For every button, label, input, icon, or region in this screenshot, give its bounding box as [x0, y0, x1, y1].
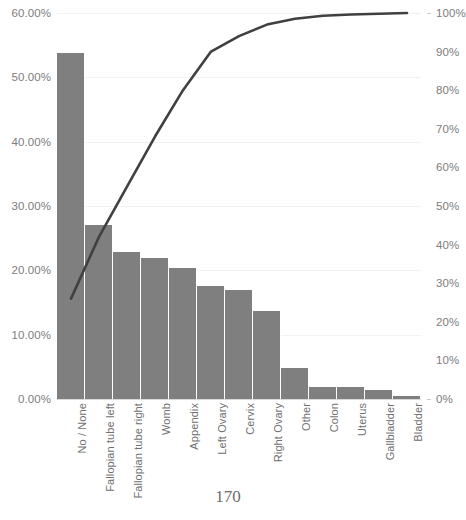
plot-area [57, 13, 421, 399]
page-number: 170 [0, 487, 456, 507]
category-label: Other [300, 403, 312, 431]
category-label: Gallbladder [384, 403, 396, 460]
category-label: Uterus [356, 403, 368, 436]
y2-axis-tick-label: 50% [436, 200, 459, 212]
y2-axis-tick-label: 30% [436, 277, 459, 289]
primary-y-axis: 0.00%10.00%20.00%30.00%40.00%50.00%60.00… [0, 13, 51, 399]
y-axis-tick-label: 0.00% [18, 393, 51, 405]
y2-axis-tick-label: 70% [436, 123, 459, 135]
category-axis-labels: No / NoneFallopian tube leftFallopian tu… [57, 403, 421, 483]
y2-axis-tick-label: 80% [436, 84, 459, 96]
y-axis-tick-label: 50.00% [11, 71, 51, 83]
y-axis-tick-label: 10.00% [11, 329, 51, 341]
y2-axis-tick-label: 40% [436, 239, 459, 251]
y2-axis-tick-label: 60% [436, 161, 459, 173]
y2-axis-tick-label: 20% [436, 316, 459, 328]
y2-axis-tick-mark [427, 399, 431, 400]
y2-axis-tick-label: 90% [436, 46, 459, 58]
category-label: Womb [160, 403, 172, 435]
category-label: No / None [76, 403, 88, 453]
y2-axis-tick-label: 10% [436, 354, 459, 366]
category-label: Fallopian tube left [104, 403, 116, 492]
category-label: Fallopian tube right [132, 403, 144, 499]
y2-axis-tick-label: 100% [436, 7, 466, 19]
category-label: Right Ovary [272, 403, 284, 462]
secondary-y-axis: 0%10%20%30%40%50%60%70%80%90%100% [427, 13, 456, 399]
category-label: Bladder [412, 403, 424, 442]
cumulative-line-series [57, 13, 421, 399]
y2-axis-tick-label: 0% [436, 393, 453, 405]
category-label: Colon [328, 403, 340, 432]
y2-axis-tick-mark [427, 13, 431, 14]
y-axis-tick-label: 20.00% [11, 264, 51, 276]
gridline [57, 399, 421, 400]
category-label: Left Ovary [216, 403, 228, 455]
y-axis-tick-label: 40.00% [11, 136, 51, 148]
category-label: Appendix [188, 403, 200, 450]
category-label: Cervix [244, 403, 256, 435]
cumulative-line-path [71, 13, 407, 299]
y-axis-tick-label: 30.00% [11, 200, 51, 212]
y-axis-tick-label: 60.00% [11, 7, 51, 19]
